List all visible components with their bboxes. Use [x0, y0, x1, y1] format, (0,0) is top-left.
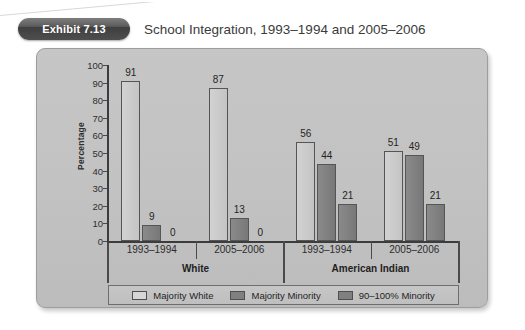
bar-value-label: 51 — [388, 137, 399, 148]
bar-value-label: 87 — [213, 74, 224, 85]
bar — [121, 81, 140, 241]
category-separator — [371, 241, 373, 259]
y-axis-tick-label: 90 — [77, 77, 103, 88]
exhibit-badge: Exhibit 7.13 — [18, 18, 130, 40]
page-title: School Integration, 1993–1994 and 2005–2… — [144, 22, 426, 37]
category-separator — [196, 241, 198, 259]
bar-value-label: 13 — [234, 204, 245, 215]
x-axis-category-label: 2005–2006 — [389, 244, 439, 255]
bar-value-label: 21 — [430, 190, 441, 201]
x-axis-right-cap — [458, 241, 460, 283]
y-axis-tick-label: 100 — [77, 60, 103, 71]
bar — [405, 155, 424, 241]
x-axis-group-label: White — [182, 263, 209, 274]
y-axis-tick-label: 0 — [77, 236, 103, 247]
chart-legend: Majority WhiteMajority Minority90–100% M… — [108, 285, 459, 305]
chart-panel: Percentage 1009080706050403020100 919087… — [36, 48, 488, 308]
bar-value-label: 0 — [257, 227, 263, 238]
legend-label: Majority White — [153, 290, 213, 301]
legend-swatch-icon — [230, 291, 245, 300]
legend-label: 90–100% Minority — [359, 290, 435, 301]
x-axis-category-label: 1993–1994 — [127, 244, 177, 255]
y-axis-tick-label: 80 — [77, 95, 103, 106]
bar — [296, 142, 315, 241]
legend-label: Majority Minority — [251, 290, 320, 301]
bar — [338, 204, 357, 241]
y-axis-ticks: 1009080706050403020100 — [73, 65, 103, 241]
bar — [230, 218, 249, 241]
y-axis-tick-label: 30 — [77, 183, 103, 194]
bar-value-label: 9 — [149, 211, 155, 222]
bar — [426, 204, 445, 241]
x-axis-category-label: 1993–1994 — [302, 244, 352, 255]
legend-swatch-icon — [338, 291, 353, 300]
plot-wrapper: Percentage 1009080706050403020100 919087… — [37, 49, 489, 309]
bar-value-label: 0 — [170, 227, 176, 238]
plot-area: 919087130564421514921 — [108, 65, 458, 241]
x-axis-group-label: American Indian — [332, 263, 410, 274]
y-axis-tick-label: 60 — [77, 130, 103, 141]
legend-swatch-icon — [132, 291, 147, 300]
exhibit-header: Exhibit 7.13 School Integration, 1993–19… — [0, 14, 525, 44]
bar-value-label: 91 — [125, 67, 136, 78]
bar-value-label: 56 — [300, 128, 311, 139]
y-axis-tick-label: 20 — [77, 200, 103, 211]
y-axis-tick-label: 70 — [77, 112, 103, 123]
bar — [384, 151, 403, 241]
bar — [142, 225, 161, 241]
x-axis-category-label: 2005–2006 — [214, 244, 264, 255]
bar-value-label: 44 — [321, 150, 332, 161]
y-axis-tick-label: 50 — [77, 148, 103, 159]
bar — [209, 88, 228, 241]
group-separator — [283, 241, 285, 283]
bar — [317, 164, 336, 241]
bar-value-label: 21 — [342, 190, 353, 201]
y-axis-tick-label: 40 — [77, 165, 103, 176]
y-axis-tick-label: 10 — [77, 218, 103, 229]
legend-item: 90–100% Minority — [338, 290, 435, 301]
legend-item: Majority White — [132, 290, 213, 301]
bar-value-label: 49 — [409, 141, 420, 152]
legend-item: Majority Minority — [230, 290, 320, 301]
y-axis-lower-extension — [107, 241, 109, 283]
